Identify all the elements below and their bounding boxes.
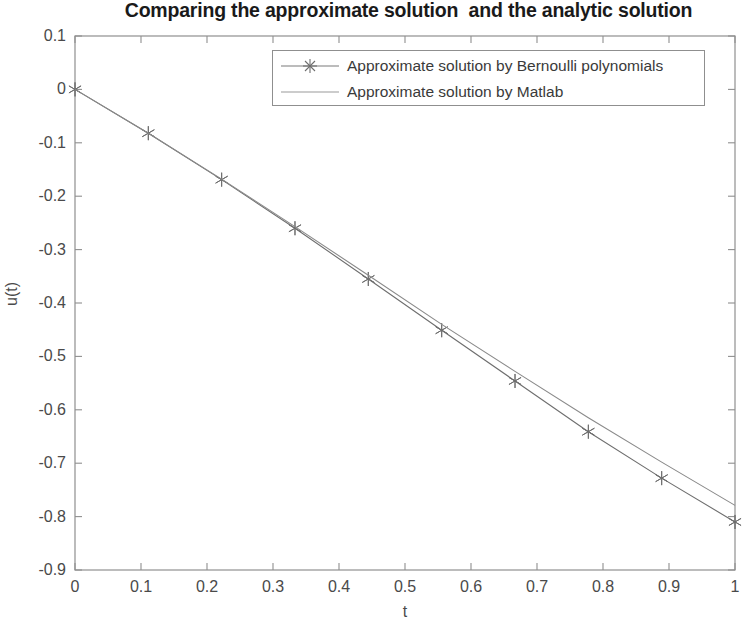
x-tick-label: 0.6 <box>460 578 482 596</box>
axes-frame <box>75 36 735 570</box>
y-tick-label: -0.2 <box>8 187 66 205</box>
data-point-marker <box>509 374 521 388</box>
data-series-group <box>69 82 741 529</box>
y-tick-label: -0.1 <box>8 134 66 152</box>
legend-entry-matlab[interactable]: Approximate solution by Matlab <box>273 78 704 106</box>
y-tick-label: -0.5 <box>8 347 66 365</box>
legend-entry-bernoulli[interactable]: Approximate solution by Bernoulli polyno… <box>273 52 704 80</box>
series-line-1 <box>75 89 735 505</box>
x-tick-label: 0.3 <box>262 578 284 596</box>
legend-label: Approximate solution by Bernoulli polyno… <box>347 57 663 75</box>
y-axis-label: u(t) <box>3 269 21 319</box>
x-tick-label: 0.8 <box>592 578 614 596</box>
axis-ticks <box>75 36 735 570</box>
legend-label: Approximate solution by Matlab <box>347 83 563 101</box>
legend-sample-star-line <box>279 55 341 77</box>
y-tick-label: -0.3 <box>8 241 66 259</box>
x-tick-label: 0.2 <box>196 578 218 596</box>
y-tick-label: 0.1 <box>8 27 66 45</box>
y-tick-label: -0.6 <box>8 401 66 419</box>
y-tick-label: -0.9 <box>8 561 66 579</box>
data-point-marker <box>656 471 668 485</box>
data-point-marker <box>362 272 374 286</box>
x-tick-label: 0.9 <box>658 578 680 596</box>
y-tick-label: -0.7 <box>8 454 66 472</box>
x-tick-label: 0.7 <box>526 578 548 596</box>
data-point-marker <box>582 425 594 439</box>
y-tick-label: 0 <box>8 80 66 98</box>
x-tick-label: 0.4 <box>328 578 350 596</box>
x-tick-label: 0 <box>71 578 80 596</box>
x-axis-label: t <box>75 603 735 621</box>
y-tick-label: -0.8 <box>8 508 66 526</box>
data-point-marker <box>436 323 448 337</box>
series-line-0 <box>75 89 735 522</box>
x-tick-label: 0.1 <box>130 578 152 596</box>
legend[interactable]: Approximate solution by Bernoulli polyno… <box>272 50 705 106</box>
figure-canvas: Comparing the approximate solution and t… <box>0 0 745 631</box>
legend-sample-plain-line <box>279 81 341 103</box>
x-tick-label: 0.5 <box>394 578 416 596</box>
x-tick-label: 1 <box>731 578 740 596</box>
